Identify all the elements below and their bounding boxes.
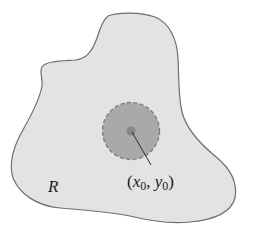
point-label-y: y <box>153 172 163 191</box>
region-diagram: R (x0, y0) <box>0 0 255 240</box>
point-label-close: ) <box>168 172 174 191</box>
region-label: R <box>47 177 59 196</box>
center-point-dot <box>127 127 136 136</box>
point-label-sep: , <box>146 172 155 191</box>
